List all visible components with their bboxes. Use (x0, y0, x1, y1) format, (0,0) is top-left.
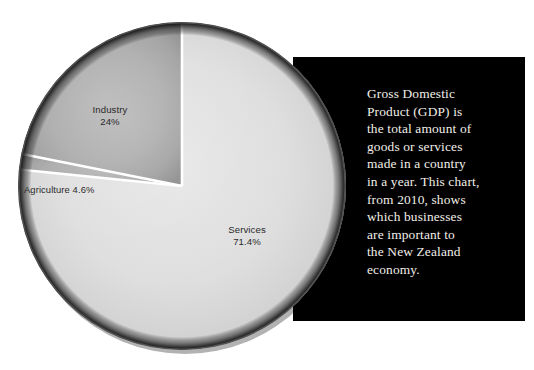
gdp-pie-figure: Gross Domestic Product (GDP) is the tota… (0, 0, 534, 370)
caption-text: Gross Domestic Product (GDP) is the tota… (367, 85, 517, 279)
pie-label-agriculture: Agriculture 4.6% (24, 184, 136, 196)
pie-label-services: Services 71.4% (205, 224, 289, 247)
pie-label-industry: Industry 24% (68, 104, 152, 127)
